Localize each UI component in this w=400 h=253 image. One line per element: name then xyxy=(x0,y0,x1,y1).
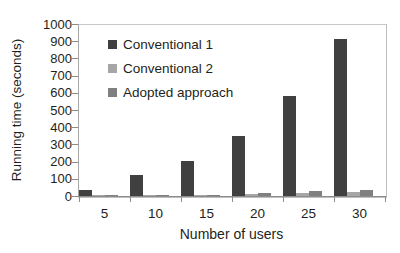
y-axis-tick-label: 700 xyxy=(26,68,72,83)
y-axis-tick-mark xyxy=(72,24,78,25)
x-axis-tick-label: 15 xyxy=(181,205,232,223)
y-axis-tick-label: 400 xyxy=(26,120,72,135)
bar xyxy=(143,195,156,197)
y-axis-tick-label: 1000 xyxy=(26,17,72,32)
bar xyxy=(334,39,347,196)
legend-item-label: Adopted approach xyxy=(123,85,233,100)
x-axis-tick-mark xyxy=(181,197,182,202)
x-axis-tick-mark xyxy=(130,197,131,202)
bar xyxy=(283,96,296,196)
x-axis-tick-mark xyxy=(385,197,386,202)
legend-item-label: Conventional 2 xyxy=(123,61,213,76)
x-axis-tick-mark xyxy=(283,197,284,202)
chart-legend: Conventional 1Conventional 2Adopted appr… xyxy=(108,33,268,105)
bar xyxy=(309,191,322,196)
x-axis-title: Number of users xyxy=(78,226,385,242)
x-axis-tick-mark xyxy=(79,197,80,202)
bar xyxy=(105,195,118,197)
y-axis-tick-mark xyxy=(72,76,78,77)
bar xyxy=(207,195,220,197)
y-axis-tick-mark xyxy=(72,41,78,42)
x-axis-tick-label: 30 xyxy=(334,205,385,223)
bar-chart-figure: Running time (seconds) 10009008007006005… xyxy=(0,0,400,253)
x-axis-tick-label: 20 xyxy=(232,205,283,223)
bar xyxy=(79,190,92,196)
y-axis-tick-mark xyxy=(72,93,78,94)
legend-item: Conventional 1 xyxy=(108,33,268,55)
bar xyxy=(232,136,245,196)
legend-item-label: Conventional 1 xyxy=(123,37,213,52)
bar xyxy=(245,194,258,196)
bar xyxy=(194,195,207,197)
bar xyxy=(181,161,194,196)
bar xyxy=(258,193,271,196)
legend-swatch-icon xyxy=(108,64,117,73)
x-axis-tick-mark xyxy=(232,197,233,202)
y-axis-tick-label: 300 xyxy=(26,137,72,152)
y-axis-tick-mark xyxy=(72,162,78,163)
y-axis-tick-mark xyxy=(72,127,78,128)
x-axis-tick-label: 5 xyxy=(79,205,130,223)
legend-swatch-icon xyxy=(108,40,117,49)
y-axis-tick-label: 500 xyxy=(26,103,72,118)
y-axis-tick-label: 600 xyxy=(26,85,72,100)
y-axis-tick-label: 800 xyxy=(26,51,72,66)
legend-swatch-icon xyxy=(108,88,117,97)
y-axis-tick-mark xyxy=(72,144,78,145)
bar-group xyxy=(283,24,322,196)
bar xyxy=(156,195,169,197)
legend-item: Adopted approach xyxy=(108,81,268,103)
y-axis-tick-label: 100 xyxy=(26,171,72,186)
x-axis-tick-mark xyxy=(334,197,335,202)
bar xyxy=(360,190,373,196)
bar-group xyxy=(334,24,373,196)
y-axis-tick-mark xyxy=(72,196,78,197)
bar xyxy=(130,175,143,196)
y-axis-tick-label: 200 xyxy=(26,154,72,169)
legend-item: Conventional 2 xyxy=(108,57,268,79)
y-axis-tick-label: 900 xyxy=(26,34,72,49)
y-axis-tick-mark xyxy=(72,179,78,180)
bar xyxy=(296,193,309,196)
y-axis-tick-labels: 10009008007006005004003002001000 xyxy=(26,16,72,204)
bar xyxy=(347,192,360,196)
y-axis-title: Running time (seconds) xyxy=(6,15,28,205)
x-axis-tick-labels: 51015202530 xyxy=(79,205,385,225)
y-axis-tick-mark xyxy=(72,110,78,111)
bar xyxy=(92,195,105,197)
x-axis-tick-label: 10 xyxy=(130,205,181,223)
y-axis-tick-label: 0 xyxy=(26,189,72,204)
x-axis-tick-label: 25 xyxy=(283,205,334,223)
y-axis-tick-mark xyxy=(72,58,78,59)
